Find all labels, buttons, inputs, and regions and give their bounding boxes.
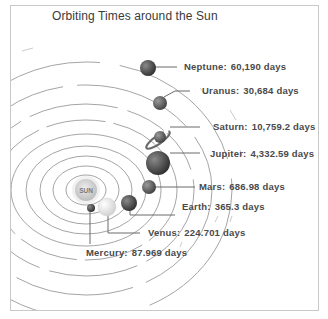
planet-saturn	[144, 129, 172, 152]
planet-venus	[98, 198, 116, 216]
planet-earth	[121, 195, 137, 211]
orbit-days: 30,684 days	[243, 85, 299, 96]
planet-neptune	[140, 60, 156, 76]
solar-system-diagram: SUN	[0, 0, 328, 319]
sun-label: SUN	[79, 187, 93, 194]
sun: SUN	[72, 176, 100, 204]
label-uranus: Uranus:30,684 days	[202, 85, 299, 96]
planet-name: Saturn:	[213, 121, 248, 132]
orbit-tick-marks	[22, 48, 242, 247]
label-earth: Earth:365.3 days	[182, 201, 265, 212]
orbit-rings	[0, 62, 232, 318]
orbit-days: 87.969 days	[132, 247, 188, 258]
planet-name: Jupiter:	[210, 148, 246, 159]
label-mercury: Mercury:87.969 days	[86, 247, 187, 258]
planet-name: Venus:	[148, 227, 180, 238]
planet-name: Earth:	[182, 201, 211, 212]
orbit-days: 4,332.59 days	[250, 148, 314, 159]
planet-mercury	[87, 204, 95, 212]
planet-name: Uranus:	[202, 85, 239, 96]
orbit-days: 224.701 days	[184, 227, 245, 238]
label-saturn: Saturn:10,759.2 days	[213, 121, 316, 132]
planet-jupiter	[146, 151, 170, 175]
planet-uranus	[153, 96, 167, 110]
planet-mars	[142, 180, 156, 194]
planet-name: Mercury:	[86, 247, 128, 258]
label-mars: Mars:686.98 days	[199, 181, 285, 192]
planet-name: Mars:	[199, 181, 225, 192]
orbit-days: 365.3 days	[215, 201, 265, 212]
planet-name: Neptune:	[184, 61, 227, 72]
orbit-days: 10,759.2 days	[252, 121, 316, 132]
diagram-title: Orbiting Times around the Sun	[52, 9, 218, 23]
orbit-days: 60,190 days	[231, 61, 287, 72]
label-neptune: Neptune:60,190 days	[184, 61, 286, 72]
label-jupiter: Jupiter:4,332.59 days	[210, 148, 314, 159]
label-venus: Venus:224.701 days	[148, 227, 245, 238]
orbit-days: 686.98 days	[229, 181, 285, 192]
